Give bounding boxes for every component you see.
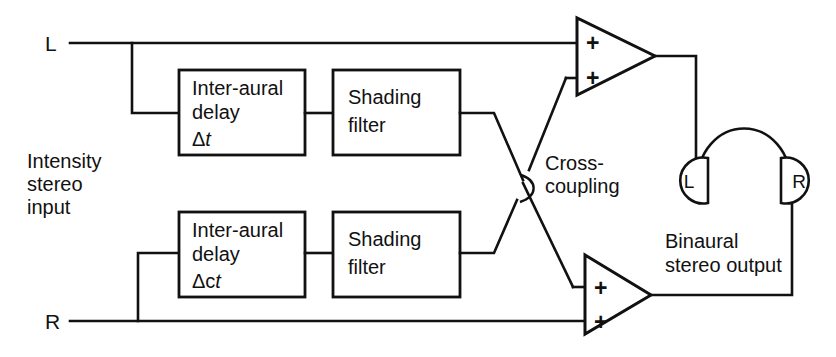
wire-top-amp-to-left-earcup — [655, 56, 696, 160]
headphone-right-earcup-label: R — [792, 171, 806, 192]
block-bottom-delay-symbol: Δc — [192, 270, 215, 292]
wire-left-tap-to-delay — [132, 43, 179, 113]
block-top-delay-symbol: Δ — [192, 128, 205, 150]
block-top-filter-line1: Shading — [348, 86, 421, 108]
label-source-line2: stereo — [27, 173, 83, 195]
label-output-line1: Binaural — [665, 230, 738, 252]
wire-top-filter-to-cross — [460, 113, 523, 180]
headphone-left-earcup-label: L — [684, 171, 695, 192]
amp-top-input-b-label: + — [586, 65, 599, 91]
block-bottom-shading-filter — [333, 212, 460, 297]
label-cross-coupling-line1: Cross- — [545, 152, 604, 174]
block-top-delay-line3: Δt — [192, 128, 212, 150]
block-bottom-filter-line2: filter — [348, 256, 386, 278]
block-top-delay-line1: Inter-aural — [192, 77, 283, 99]
wire-right-tap-to-delay — [138, 253, 179, 321]
label-source-line1: Intensity — [27, 150, 101, 172]
diagram-canvas: + + + + L R L R Intensity stereo input I… — [0, 0, 836, 357]
amp-top-input-a-label: + — [586, 30, 599, 56]
amp-bottom-input-b-label: + — [594, 309, 607, 335]
wire-bottom-filter-to-cross — [460, 200, 517, 253]
label-right-input: R — [45, 310, 60, 333]
block-top-filter-line2: filter — [348, 114, 386, 136]
label-source-line3: input — [27, 196, 71, 218]
label-left-input: L — [45, 32, 57, 55]
binaural-block-diagram: + + + + L R L R Intensity stereo input I… — [0, 0, 836, 357]
block-top-delay-line2: delay — [192, 101, 240, 123]
amp-bottom-input-a-label: + — [594, 275, 607, 301]
label-cross-coupling-line2: coupling — [545, 175, 620, 197]
block-bottom-delay-line3: Δct — [192, 270, 222, 292]
headphone-headband — [696, 129, 792, 191]
block-bottom-delay-line1: Inter-aural — [192, 219, 283, 241]
block-bottom-delay-line2: delay — [192, 243, 240, 265]
label-output-line2: stereo output — [665, 254, 782, 276]
block-bottom-filter-line1: Shading — [348, 228, 421, 250]
wire-cross-down-to-bottom-amp — [523, 183, 573, 287]
block-top-shading-filter — [333, 70, 460, 155]
